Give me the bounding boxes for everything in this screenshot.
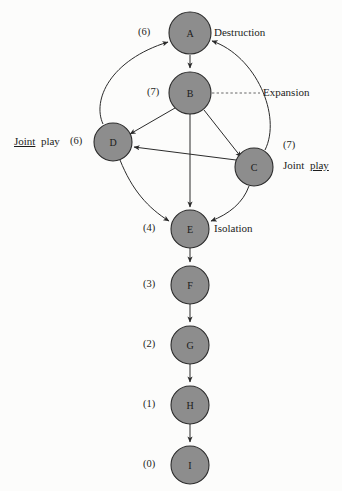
node-c[interactable]: C <box>235 148 273 186</box>
node-f[interactable]: F <box>171 266 209 304</box>
graph-svg: ABDCEFGHI <box>0 0 342 491</box>
node-d[interactable]: D <box>94 123 132 161</box>
joint-play-word-1: Joint <box>14 135 35 147</box>
node-label-i: I <box>188 460 191 471</box>
joint-play-word-2: play <box>310 159 329 171</box>
node-i[interactable]: I <box>171 446 209 484</box>
edge-d-to-a <box>100 42 168 124</box>
edge-c-to-e <box>211 186 249 221</box>
label-isolation: Isolation <box>214 222 253 234</box>
node-e[interactable]: E <box>171 210 209 248</box>
node-label-c: C <box>251 162 258 173</box>
rank-label-d: (6) <box>70 135 82 146</box>
label-joint-play-right: Joint play <box>283 159 329 171</box>
label-joint-play-left: Joint play <box>14 135 60 147</box>
node-label-a: A <box>186 28 194 39</box>
node-label-d: D <box>109 137 116 148</box>
rank-label-b: (7) <box>147 86 159 97</box>
node-label-h: H <box>186 400 193 411</box>
rank-label-c: (7) <box>283 139 295 150</box>
node-g[interactable]: G <box>171 326 209 364</box>
node-a[interactable]: A <box>169 12 211 54</box>
joint-play-word-2: play <box>41 135 60 147</box>
joint-play-word-1: Joint <box>283 159 304 171</box>
node-layer: ABDCEFGHI <box>94 12 273 484</box>
rank-label-i: (0) <box>143 458 155 469</box>
node-b[interactable]: B <box>169 72 211 114</box>
node-label-f: F <box>187 280 193 291</box>
edge-c-to-a <box>212 41 270 150</box>
rank-label-f: (3) <box>143 278 155 289</box>
node-h[interactable]: H <box>171 386 209 424</box>
rank-label-a: (6) <box>138 26 150 37</box>
node-label-b: B <box>187 88 194 99</box>
rank-label-h: (1) <box>143 398 155 409</box>
edge-c-to-d <box>134 147 236 160</box>
label-destruction: Destruction <box>214 26 265 38</box>
node-label-e: E <box>187 224 193 235</box>
edge-d-to-e <box>120 160 169 221</box>
diagram-canvas: ABDCEFGHI (6)(7)(6)(7)(4)(3)(2)(1)(0) De… <box>0 0 342 491</box>
label-expansion: Expansion <box>263 86 309 98</box>
edge-b-to-c <box>204 110 241 157</box>
rank-label-e: (4) <box>143 222 155 233</box>
edge-b-to-d <box>130 108 175 134</box>
rank-label-g: (2) <box>143 338 155 349</box>
node-label-g: G <box>186 340 193 351</box>
